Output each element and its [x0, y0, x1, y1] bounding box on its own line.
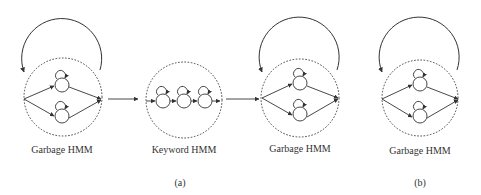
caption-a: (a): [174, 177, 185, 189]
hmm-diagram: Garbage HMM Keyword HMM Garbage HMM: [0, 0, 481, 195]
state-node: [55, 78, 69, 92]
model-label: Keyword HMM: [152, 144, 217, 155]
edge-exit-bottom: [427, 100, 458, 118]
edge-entry-bottom: [262, 98, 292, 115]
edge-entry-top: [262, 84, 292, 98]
state-node: [55, 109, 69, 123]
edge-entry-top: [382, 85, 412, 99]
state-node: [177, 94, 191, 108]
edge-exit-top: [427, 87, 458, 99]
state-node: [156, 94, 170, 108]
caption-b: (b): [414, 177, 426, 189]
keyword-hmm: Keyword HMM: [146, 62, 222, 155]
edge-exit-top: [307, 86, 338, 98]
edge-entry-bottom: [382, 99, 412, 117]
garbage-hmm-boundary: [382, 60, 458, 136]
edge-entry-top: [24, 86, 54, 99]
loop-back-arc: [22, 19, 102, 72]
garbage-hmm-2: Garbage HMM: [259, 17, 339, 154]
edge-exit-bottom: [307, 99, 338, 117]
edge-exit-top: [69, 87, 101, 99]
garbage-hmm-1: Garbage HMM: [22, 19, 102, 155]
model-label: Garbage HMM: [31, 144, 92, 155]
garbage-hmm-3: Garbage HMM: [379, 17, 459, 156]
garbage-hmm-boundary: [24, 58, 102, 136]
state-node: [198, 94, 212, 108]
state-node: [413, 109, 427, 123]
loop-back-arc: [379, 17, 459, 72]
state-node: [293, 76, 307, 90]
state-node: [413, 77, 427, 91]
loop-back-arc: [259, 17, 339, 72]
edge-exit-bottom: [69, 100, 101, 118]
garbage-hmm-boundary: [261, 59, 339, 137]
model-label: Garbage HMM: [389, 145, 450, 156]
edge-entry-bottom: [24, 99, 54, 116]
model-label: Garbage HMM: [269, 143, 330, 154]
state-node: [293, 107, 307, 121]
